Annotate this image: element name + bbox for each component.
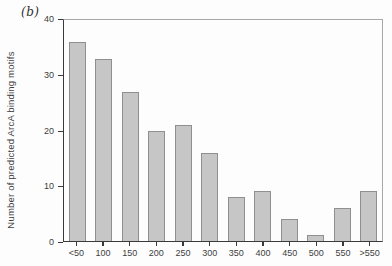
bar-slot <box>276 20 303 241</box>
x-tick-label: 500 <box>309 248 324 258</box>
bar-slot <box>250 20 277 241</box>
x-tick-mark <box>289 242 290 246</box>
x-tick-label: 550 <box>336 248 351 258</box>
y-axis-ticks: 010203040 <box>0 19 63 242</box>
x-tick-label: <50 <box>69 248 84 258</box>
x-tick-cell: 150 <box>116 242 143 266</box>
bar-400 <box>254 191 271 241</box>
x-tick-label: 300 <box>202 248 217 258</box>
x-tick-mark <box>316 242 317 246</box>
bar->550 <box>360 191 377 241</box>
bar-100 <box>95 59 112 241</box>
x-tick-cell: <50 <box>63 242 90 266</box>
y-tick-label: 10 <box>24 181 54 191</box>
bar-slot <box>170 20 197 241</box>
x-tick-cell: 100 <box>90 242 117 266</box>
bar-150 <box>122 92 139 241</box>
x-tick-label: 450 <box>282 248 297 258</box>
x-tick-mark <box>262 242 263 246</box>
x-tick-mark <box>182 242 183 246</box>
x-tick-mark <box>156 242 157 246</box>
bar-slot <box>64 20 91 241</box>
bar-350 <box>228 197 245 241</box>
bar-slot <box>197 20 224 241</box>
bar-550 <box>334 208 351 241</box>
x-tick-label: 400 <box>256 248 271 258</box>
y-tick-label: 40 <box>24 14 54 24</box>
bar-slot <box>303 20 330 241</box>
bar-500 <box>307 235 324 241</box>
x-tick-mark <box>342 242 343 246</box>
x-tick-cell: 450 <box>276 242 303 266</box>
x-tick-mark <box>369 242 370 246</box>
x-tick-cell: 250 <box>170 242 197 266</box>
bar-450 <box>281 219 298 241</box>
x-tick-label: >550 <box>360 248 380 258</box>
x-tick-cell: 400 <box>250 242 277 266</box>
x-tick-label: 350 <box>229 248 244 258</box>
x-tick-label: 200 <box>149 248 164 258</box>
plot-area <box>63 19 383 242</box>
x-tick-label: 250 <box>176 248 191 258</box>
x-tick-cell: >550 <box>356 242 383 266</box>
bar-300 <box>201 153 218 241</box>
bar-chart-figure: (b) Number of predicted ArcA binding mot… <box>0 0 392 266</box>
x-tick-cell: 550 <box>330 242 357 266</box>
x-tick-mark <box>129 242 130 246</box>
bar-slot <box>356 20 383 241</box>
bar-slot <box>329 20 356 241</box>
bar-slot <box>91 20 118 241</box>
x-tick-cell: 200 <box>143 242 170 266</box>
x-tick-mark <box>209 242 210 246</box>
x-axis-ticks: <50100150200250300350400450500550>550 <box>63 242 383 266</box>
x-tick-label: 100 <box>95 248 110 258</box>
y-tick-label: 0 <box>24 237 54 247</box>
bar-250 <box>175 125 192 241</box>
bar-slot <box>144 20 171 241</box>
x-tick-cell: 350 <box>223 242 250 266</box>
x-tick-mark <box>102 242 103 246</box>
x-tick-cell: 500 <box>303 242 330 266</box>
bar-200 <box>148 131 165 242</box>
x-tick-mark <box>76 242 77 246</box>
bar-slot <box>223 20 250 241</box>
bars-container <box>64 20 382 241</box>
bar-<50 <box>69 42 86 241</box>
x-tick-label: 150 <box>122 248 137 258</box>
y-tick-label: 20 <box>24 126 54 136</box>
x-tick-mark <box>236 242 237 246</box>
y-tick-label: 30 <box>24 70 54 80</box>
x-tick-cell: 300 <box>196 242 223 266</box>
bar-slot <box>117 20 144 241</box>
